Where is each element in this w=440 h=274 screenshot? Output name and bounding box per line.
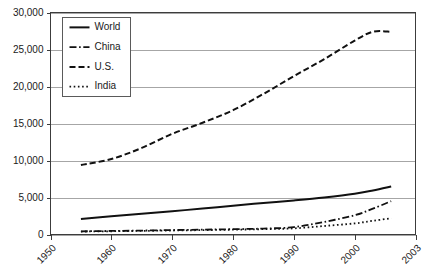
x-axis-tick-label: 2000 bbox=[338, 242, 362, 266]
legend-label-china: China bbox=[95, 41, 122, 52]
legend-label-world: World bbox=[95, 21, 121, 32]
x-axis-tick-label: 1970 bbox=[155, 242, 179, 266]
legend-label-u-s: U.S. bbox=[95, 61, 114, 72]
x-axis-labels-group: 1950196019701980199020002003 bbox=[34, 242, 423, 266]
y-axis-tick-label: 30,000 bbox=[13, 7, 44, 18]
line-chart: 05,00010,00015,00020,00025,00030,000 195… bbox=[0, 0, 440, 274]
legend-label-india: India bbox=[95, 80, 117, 91]
y-axis-tick-label: 15,000 bbox=[13, 118, 44, 129]
y-axis-tick-label: 25,000 bbox=[13, 44, 44, 55]
y-axis-labels-group: 05,00010,00015,00020,00025,00030,000 bbox=[13, 7, 44, 240]
y-axis-tick-label: 20,000 bbox=[13, 81, 44, 92]
y-axis-tick-label: 5,000 bbox=[18, 192, 43, 203]
chart-container: 05,00010,00015,00020,00025,00030,000 195… bbox=[0, 0, 440, 274]
y-axis-tick-label: 10,000 bbox=[13, 155, 44, 166]
y-axis-tick-label: 0 bbox=[38, 229, 44, 240]
x-axis-tick-label: 1950 bbox=[34, 242, 58, 266]
x-axis-tick-label: 1960 bbox=[94, 242, 118, 266]
legend: WorldChinaU.S.India bbox=[63, 18, 131, 97]
x-axis-tick-label: 1990 bbox=[277, 242, 301, 266]
x-axis-tick-label: 1980 bbox=[216, 242, 240, 266]
x-axis-tick-label: 2003 bbox=[399, 242, 423, 266]
series-line-world bbox=[81, 186, 391, 219]
